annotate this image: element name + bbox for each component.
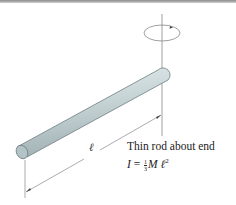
formula-exponent: 2 [165, 157, 169, 165]
fraction-denominator: 3 [144, 166, 147, 172]
formula-fraction: 1 3 [144, 159, 147, 172]
figure-caption: Thin rod about end [127, 139, 215, 153]
fraction-numerator: 1 [144, 159, 147, 166]
formula-mass: M [148, 158, 158, 170]
figure-canvas: ℓ Thin rod about end I = 1 3 M ℓ2 [0, 0, 236, 205]
formula-equals: = [134, 158, 141, 170]
rod-diagram [0, 0, 236, 205]
length-label: ℓ [89, 141, 94, 153]
moment-of-inertia-formula: I = 1 3 M ℓ2 [127, 154, 169, 172]
formula-inertia-symbol: I [127, 158, 131, 170]
